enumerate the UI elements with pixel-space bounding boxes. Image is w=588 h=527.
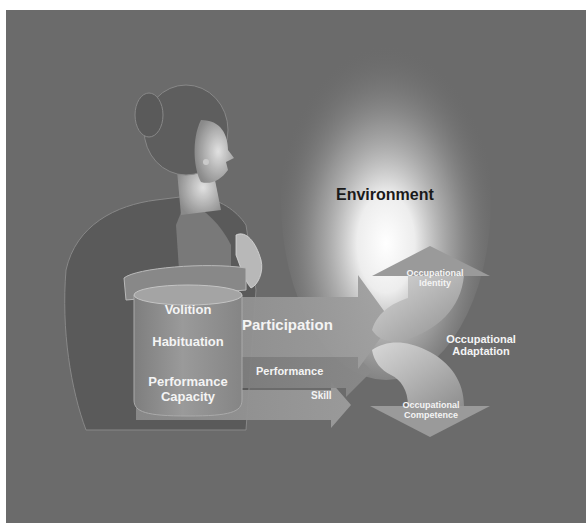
diagram-graphics: [6, 10, 586, 523]
volition-label: Volition: [156, 303, 220, 318]
competence-line1: Occupational: [386, 400, 476, 410]
participation-label: Participation: [242, 317, 333, 334]
habituation-label: Habituation: [142, 335, 234, 350]
adaptation-line1: Occupational: [436, 333, 526, 345]
performance-capacity-line1: Performance: [134, 375, 242, 390]
performance-label: Performance: [256, 365, 323, 377]
occupational-competence-label: Occupational Competence: [386, 400, 476, 420]
diagram-frame: Environment Volition Habituation Perform…: [6, 10, 586, 523]
competence-line2: Competence: [386, 410, 476, 420]
skill-label: Skill: [311, 390, 332, 401]
performance-capacity-label: Performance Capacity: [134, 375, 242, 404]
identity-line1: Occupational: [390, 268, 480, 278]
occupational-identity-label: Occupational Identity: [390, 268, 480, 288]
performance-capacity-line2: Capacity: [134, 390, 242, 405]
occupational-adaptation-label: Occupational Adaptation: [436, 333, 526, 358]
adaptation-line2: Adaptation: [436, 345, 526, 357]
identity-line2: Identity: [390, 278, 480, 288]
environment-label: Environment: [336, 186, 434, 204]
